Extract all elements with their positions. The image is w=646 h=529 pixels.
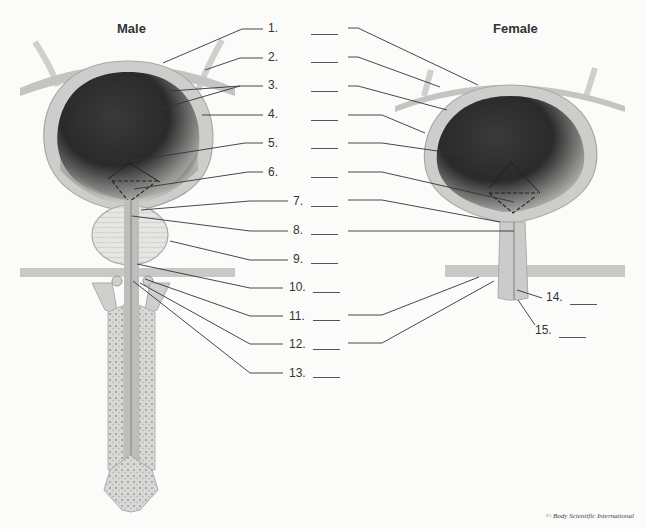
- label-1: 1.: [268, 21, 278, 35]
- label-9: 9.: [293, 252, 303, 266]
- label-15: 15.: [535, 323, 552, 337]
- label-12: 12.: [289, 337, 306, 351]
- label-8: 8.: [293, 223, 303, 237]
- copyright-credit: © Body Scientific International: [546, 512, 634, 520]
- answer-blank-10[interactable]: [313, 292, 340, 293]
- bulbourethral-gland-left: [112, 276, 122, 286]
- answer-blank-6[interactable]: [311, 177, 338, 178]
- answer-blank-1[interactable]: [311, 34, 338, 35]
- label-11: 11.: [289, 309, 305, 323]
- label-10: 10.: [289, 280, 306, 294]
- label-14: 14.: [546, 290, 563, 304]
- answer-blank-3[interactable]: [311, 91, 338, 92]
- answer-blank-13[interactable]: [313, 377, 340, 378]
- answer-blank-5[interactable]: [311, 148, 338, 149]
- label-2: 2.: [268, 50, 278, 64]
- answer-blank-7[interactable]: [311, 206, 338, 207]
- corpus-right: [139, 305, 155, 470]
- female-urethra-body: [498, 222, 528, 300]
- answer-blank-9[interactable]: [311, 263, 338, 264]
- answer-blank-8[interactable]: [311, 234, 338, 235]
- answer-blank-12[interactable]: [313, 349, 340, 350]
- answer-blank-4[interactable]: [311, 120, 338, 121]
- answer-blank-14[interactable]: [570, 304, 597, 305]
- label-3: 3.: [268, 78, 278, 92]
- answer-blank-11[interactable]: [313, 320, 340, 321]
- answer-blank-2[interactable]: [311, 62, 338, 63]
- label-13: 13.: [289, 366, 306, 380]
- label-6: 6.: [268, 165, 278, 179]
- answer-blank-15[interactable]: [559, 337, 586, 338]
- label-4: 4.: [268, 107, 278, 121]
- anatomy-illustration: [0, 0, 646, 529]
- label-7: 7.: [293, 194, 303, 208]
- corpus-left: [108, 305, 124, 470]
- label-5: 5.: [268, 136, 278, 150]
- female-urogenital-diaphragm: [445, 265, 625, 277]
